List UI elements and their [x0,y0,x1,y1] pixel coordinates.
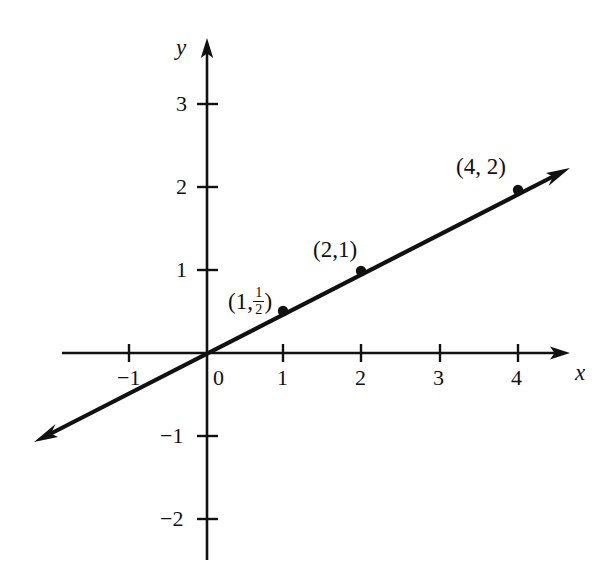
x-axis-label: x [575,361,585,384]
point-label-1-half: (1,12) [228,285,272,317]
fraction-denominator: 2 [253,302,264,318]
point-label-1-half-close: ) [265,289,273,314]
data-point-2-1 [356,266,366,276]
y-tick-label-3: 3 [176,93,187,115]
data-point-1-half [278,306,288,316]
plotted-line [48,175,556,435]
x-tick-label--1: −1 [117,367,140,389]
graph-figure: y x −1 0 1 2 3 4 3 2 1 −1 −2 (1,12) (2,1… [0,0,611,580]
fraction-one-half: 12 [253,285,264,317]
y-tick-label--2: −2 [160,508,183,530]
x-tick-label-0: 0 [213,367,224,389]
point-label-4-2: (4, 2) [456,155,506,178]
x-tick-label-2: 2 [355,367,366,389]
fraction-numerator: 1 [253,285,264,302]
data-point-4-2 [513,185,523,195]
coordinate-plane-svg [0,0,611,580]
x-tick-label-3: 3 [433,367,444,389]
point-label-1-half-open: (1, [228,289,253,314]
y-tick-label-1: 1 [176,259,187,281]
y-axis-label: y [176,36,186,59]
point-label-2-1: (2,1) [313,238,357,261]
x-tick-label-1: 1 [277,367,288,389]
y-tick-label--1: −1 [160,425,183,447]
y-tick-label-2: 2 [176,176,187,198]
x-tick-label-4: 4 [511,367,522,389]
